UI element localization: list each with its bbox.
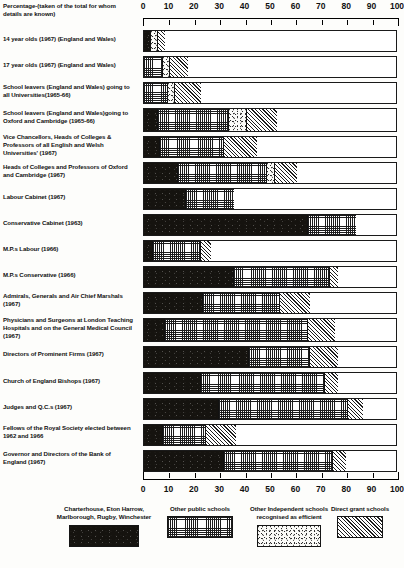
legend-item-direct-grant: Direct grant schools — [318, 505, 402, 538]
row-label: Conservative Cabinet (1963) — [3, 219, 134, 227]
bar-segment — [159, 137, 224, 157]
legend-swatch — [257, 525, 321, 547]
bar-segment — [144, 347, 248, 367]
row-bar-track — [143, 292, 397, 314]
axis-tick-label: 90 — [367, 484, 376, 494]
row-bar-track — [143, 188, 397, 210]
axis-tick-label: 80 — [341, 1, 350, 11]
bar-segment — [152, 241, 201, 261]
bar-segment — [144, 451, 223, 471]
chart-legend: Charterhouse, Eton Harrow, Marlborough, … — [0, 505, 402, 568]
row-bar-track — [143, 346, 397, 368]
row-label: School leavers (England and Wales)going … — [3, 109, 134, 125]
row-bar-track — [143, 56, 397, 78]
row-label: Heads of Colleges and Professors of Oxfo… — [3, 163, 134, 179]
bar-segment — [347, 399, 363, 419]
bar-segment — [144, 189, 185, 209]
row-bar-track — [143, 82, 397, 104]
row-bar-track — [143, 214, 397, 236]
axis-tick-mark — [220, 473, 221, 478]
axis-tick-label: 60 — [291, 1, 300, 11]
bar-segment — [202, 293, 279, 313]
bar-segment — [324, 373, 338, 393]
bar-segment — [279, 293, 310, 313]
bar-segment — [200, 241, 211, 261]
row-bar-track — [143, 424, 397, 446]
bar-segment — [223, 137, 257, 157]
legend-swatch — [337, 516, 383, 538]
axis-tick-label: 30 — [214, 1, 223, 11]
row-label: 14 year olds (1967) (England and Wales) — [3, 35, 134, 43]
axis-tick-label: 50 — [265, 1, 274, 11]
bar-segment — [144, 241, 152, 261]
axis-tick-mark — [373, 20, 374, 25]
axis-tick-label: 10 — [164, 484, 173, 494]
axis-tick-mark — [347, 20, 348, 25]
row-bar-track — [143, 136, 397, 158]
axis-tick-label: 50 — [265, 484, 274, 494]
bar-segment — [223, 451, 333, 471]
bar-segment — [144, 83, 167, 103]
axis-tick-mark — [296, 20, 297, 25]
bar-segment — [164, 319, 307, 341]
bar-segment — [274, 163, 298, 183]
row-label: Directors of Prominent Firms (1967) — [3, 350, 134, 358]
bar-segment — [144, 319, 164, 341]
axis-tick-label: 70 — [316, 484, 325, 494]
row-bar-track — [143, 318, 397, 342]
row-label: Governor and Directors of the Bank of En… — [3, 450, 134, 466]
row-label: 17 year olds (1967) (England and Wales) — [3, 61, 134, 69]
axis-tick-label: 40 — [240, 484, 249, 494]
axis-tick-mark — [195, 20, 196, 25]
chart-caption: Percentage-(taken of the total for whom … — [3, 2, 133, 18]
x-axis-labels-top: 0102030405060708090100 — [138, 1, 402, 13]
bar-segment — [309, 347, 338, 367]
bar-segment — [144, 57, 162, 77]
bar-segment — [144, 293, 202, 313]
axis-tick-mark — [271, 473, 272, 478]
row-bar-track — [143, 450, 397, 472]
row-bar-track — [143, 266, 397, 288]
bar-segment — [169, 57, 188, 77]
axis-tick-mark — [169, 20, 170, 25]
row-label: M.P.s Labour (1966) — [3, 245, 134, 253]
axis-tick-mark — [169, 473, 170, 478]
bar-segment — [307, 215, 356, 235]
row-label: M.P.s Conservative (1966) — [3, 271, 134, 279]
bar-segment — [157, 109, 229, 131]
row-label: Vice Chancellors, Heads of Colleges & Pr… — [3, 133, 134, 157]
bar-segment — [144, 137, 159, 157]
axis-tick-mark — [373, 473, 374, 478]
row-bar-track — [143, 398, 397, 420]
bar-segment — [218, 399, 349, 419]
axis-tick-label: 30 — [214, 484, 223, 494]
bar-segment — [162, 425, 206, 445]
legend-swatch — [167, 516, 233, 538]
axis-tick-mark — [246, 473, 247, 478]
row-bar-track — [143, 162, 397, 184]
row-label: Labour Cabinet (1967) — [3, 193, 134, 201]
axis-tick-mark — [322, 473, 323, 478]
bar-segment — [200, 373, 325, 393]
bar-segment — [233, 267, 331, 287]
axis-tick-label: 20 — [189, 1, 198, 11]
bar-segment — [185, 189, 234, 209]
bar-segment — [144, 373, 200, 393]
bar-segment — [144, 215, 307, 235]
axis-tick-label: 40 — [240, 1, 249, 11]
bar-segment — [157, 31, 166, 51]
bar-segment — [248, 347, 310, 367]
row-label: Church of England Bishops (1967) — [3, 377, 134, 385]
bar-segment — [205, 425, 236, 445]
row-label: Physicians and Surgeons at London Teachi… — [3, 316, 134, 340]
row-bar-track — [143, 372, 397, 394]
axis-tick-label: 60 — [291, 484, 300, 494]
bar-segment — [329, 267, 338, 287]
legend-label: Charterhouse, Eton Harrow, Marlborough, … — [50, 505, 158, 522]
axis-tick-label: 70 — [316, 1, 325, 11]
row-bar-track — [143, 30, 397, 52]
bar-segment — [246, 109, 277, 131]
axis-tick-mark — [195, 473, 196, 478]
axis-tick-label: 80 — [341, 484, 350, 494]
